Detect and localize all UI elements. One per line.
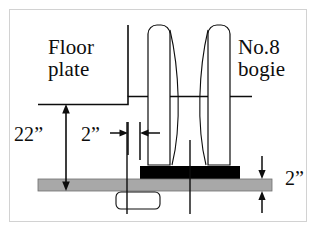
bottom-rounded-box: [116, 192, 160, 209]
label-bogie: No.8 bogie: [238, 36, 285, 81]
dimension-arrow-height: [62, 104, 70, 191]
label-floor-plate: Floor plate: [48, 36, 94, 81]
dimension-label-thickness: 2”: [285, 168, 304, 189]
diagram-canvas: Floor plate No.8 bogie 22” 2” 2”: [0, 0, 317, 232]
bogie-post-right: [208, 25, 230, 165]
dimension-label-height: 22”: [14, 124, 43, 145]
bogie-post-left: [148, 25, 170, 165]
bogie-wheel-profile-right: [200, 30, 208, 165]
gray-base-plate: [38, 179, 272, 191]
bogie-wheel-profile-left: [170, 30, 178, 165]
dimension-label-offset: 2”: [81, 124, 100, 145]
